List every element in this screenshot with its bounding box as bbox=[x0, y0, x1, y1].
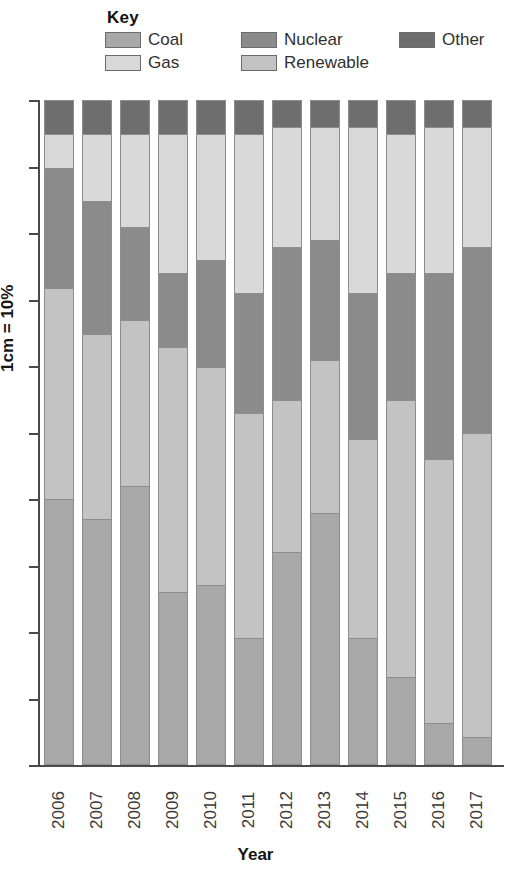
y-axis-tick bbox=[29, 100, 38, 102]
bar-segment-nuclear[interactable] bbox=[463, 247, 491, 433]
bar-group bbox=[44, 100, 492, 765]
bar-segment-nuclear[interactable] bbox=[425, 273, 453, 459]
bar-segment-gas[interactable] bbox=[197, 134, 225, 260]
y-axis-tick bbox=[29, 499, 38, 501]
bar-segment-coal[interactable] bbox=[349, 638, 377, 764]
x-tick-label: 2006 bbox=[49, 791, 69, 829]
bar-segment-other[interactable] bbox=[121, 101, 149, 134]
bar-segment-other[interactable] bbox=[349, 101, 377, 127]
bar-2011[interactable] bbox=[234, 100, 264, 765]
bar-segment-other[interactable] bbox=[235, 101, 263, 134]
bar-segment-nuclear[interactable] bbox=[387, 273, 415, 399]
bar-segment-coal[interactable] bbox=[273, 552, 301, 764]
bar-segment-nuclear[interactable] bbox=[311, 240, 339, 360]
bar-segment-renewable[interactable] bbox=[425, 459, 453, 724]
bar-segment-gas[interactable] bbox=[311, 127, 339, 240]
bar-segment-other[interactable] bbox=[159, 101, 187, 134]
bar-segment-coal[interactable] bbox=[83, 519, 111, 764]
legend-label-renewable: Renewable bbox=[284, 54, 369, 71]
bar-2017[interactable] bbox=[462, 100, 492, 765]
legend-swatch-other bbox=[399, 32, 435, 48]
x-axis-label: Year bbox=[0, 845, 511, 865]
bar-segment-nuclear[interactable] bbox=[83, 201, 111, 334]
bar-segment-other[interactable] bbox=[387, 101, 415, 134]
bar-segment-renewable[interactable] bbox=[387, 400, 415, 678]
bar-2006[interactable] bbox=[44, 100, 74, 765]
legend-title: Key bbox=[107, 8, 505, 28]
bar-2012[interactable] bbox=[272, 100, 302, 765]
bar-segment-coal[interactable] bbox=[387, 677, 415, 764]
x-tick-label: 2010 bbox=[201, 791, 221, 829]
x-tick-label: 2011 bbox=[239, 792, 259, 829]
bar-segment-renewable[interactable] bbox=[197, 367, 225, 585]
x-tick-label: 2013 bbox=[315, 791, 335, 829]
bar-segment-gas[interactable] bbox=[387, 134, 415, 273]
bar-segment-coal[interactable] bbox=[235, 638, 263, 764]
bar-segment-gas[interactable] bbox=[121, 134, 149, 227]
y-axis-tick bbox=[29, 699, 38, 701]
bar-segment-renewable[interactable] bbox=[463, 433, 491, 737]
bar-segment-other[interactable] bbox=[311, 101, 339, 127]
bar-2008[interactable] bbox=[120, 100, 150, 765]
bar-segment-nuclear[interactable] bbox=[159, 273, 187, 346]
bar-segment-other[interactable] bbox=[463, 101, 491, 127]
bar-segment-gas[interactable] bbox=[45, 134, 73, 168]
bar-segment-other[interactable] bbox=[197, 101, 225, 134]
x-tick-2011: 2011 bbox=[234, 772, 264, 820]
y-axis-tick bbox=[29, 233, 38, 235]
bar-segment-renewable[interactable] bbox=[45, 288, 73, 500]
bar-segment-gas[interactable] bbox=[159, 134, 187, 273]
bar-segment-gas[interactable] bbox=[235, 134, 263, 293]
y-axis-tick bbox=[29, 566, 38, 568]
bar-segment-gas[interactable] bbox=[83, 134, 111, 201]
bar-2014[interactable] bbox=[348, 100, 378, 765]
bar-segment-gas[interactable] bbox=[273, 127, 301, 247]
y-axis-tick bbox=[29, 433, 38, 435]
bar-2016[interactable] bbox=[424, 100, 454, 765]
bar-segment-renewable[interactable] bbox=[121, 320, 149, 486]
bar-segment-nuclear[interactable] bbox=[349, 293, 377, 439]
bar-segment-coal[interactable] bbox=[311, 513, 339, 764]
x-axis-tick-labels: 2006200720082009201020112012201320142015… bbox=[44, 772, 492, 820]
bar-segment-renewable[interactable] bbox=[235, 413, 263, 638]
bar-segment-other[interactable] bbox=[83, 101, 111, 134]
bar-segment-gas[interactable] bbox=[425, 127, 453, 273]
x-axis-line bbox=[38, 765, 504, 767]
y-axis-tick bbox=[29, 765, 38, 767]
y-axis-tick bbox=[29, 632, 38, 634]
bar-segment-other[interactable] bbox=[45, 101, 73, 134]
y-axis-tick bbox=[29, 167, 38, 169]
bar-segment-renewable[interactable] bbox=[273, 400, 301, 553]
x-tick-label: 2009 bbox=[163, 791, 183, 829]
bar-2009[interactable] bbox=[158, 100, 188, 765]
bar-segment-gas[interactable] bbox=[349, 127, 377, 293]
bar-segment-renewable[interactable] bbox=[349, 439, 377, 638]
bar-segment-nuclear[interactable] bbox=[121, 227, 149, 320]
legend-label-nuclear: Nuclear bbox=[284, 31, 343, 48]
x-tick-label: 2014 bbox=[353, 791, 373, 829]
bar-2007[interactable] bbox=[82, 100, 112, 765]
bar-segment-coal[interactable] bbox=[197, 585, 225, 764]
bar-segment-renewable[interactable] bbox=[83, 334, 111, 520]
y-axis-label: 1cm = 10% bbox=[0, 285, 18, 372]
bar-segment-nuclear[interactable] bbox=[235, 293, 263, 413]
bar-2010[interactable] bbox=[196, 100, 226, 765]
bar-segment-coal[interactable] bbox=[159, 592, 187, 764]
x-tick-2010: 2010 bbox=[196, 772, 226, 820]
bar-segment-coal[interactable] bbox=[45, 499, 73, 764]
bar-segment-coal[interactable] bbox=[463, 737, 491, 764]
bar-segment-renewable[interactable] bbox=[311, 360, 339, 513]
x-tick-label: 2012 bbox=[277, 791, 297, 829]
bar-segment-nuclear[interactable] bbox=[45, 168, 73, 288]
bar-segment-nuclear[interactable] bbox=[197, 260, 225, 366]
bar-segment-other[interactable] bbox=[273, 101, 301, 127]
bar-segment-gas[interactable] bbox=[463, 127, 491, 247]
bar-segment-coal[interactable] bbox=[121, 486, 149, 764]
bar-segment-nuclear[interactable] bbox=[273, 247, 301, 400]
bar-segment-other[interactable] bbox=[425, 101, 453, 127]
bar-2015[interactable] bbox=[386, 100, 416, 765]
bar-2013[interactable] bbox=[310, 100, 340, 765]
bar-segment-renewable[interactable] bbox=[159, 347, 187, 592]
legend-item-renewable: Renewable bbox=[241, 54, 399, 71]
bar-segment-coal[interactable] bbox=[425, 723, 453, 764]
